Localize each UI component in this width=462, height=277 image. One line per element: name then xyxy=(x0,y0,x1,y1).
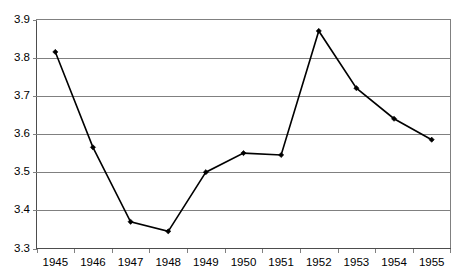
y-axis-tick-label: 3.7 xyxy=(2,90,30,102)
x-axis-tick-label: 1946 xyxy=(73,257,113,269)
x-axis-tick-label: 1955 xyxy=(412,257,452,269)
series-line xyxy=(55,31,431,231)
y-axis-tick-label: 3.6 xyxy=(2,128,30,140)
y-axis-tick-label: 3.4 xyxy=(2,204,30,216)
gridlines xyxy=(37,59,451,211)
line-chart: 3.93.83.73.63.53.43.3 194519461947194819… xyxy=(0,0,462,277)
y-axis-tick-label: 3.8 xyxy=(2,52,30,64)
chart-canvas xyxy=(0,0,462,277)
y-axis-tick-label: 3.3 xyxy=(2,243,30,255)
x-axis-tick-label: 1945 xyxy=(35,257,75,269)
x-axis-tick-label: 1948 xyxy=(148,257,188,269)
data-point-marker xyxy=(128,219,133,224)
data-series xyxy=(55,31,431,231)
data-point-markers xyxy=(53,28,435,234)
x-axis-tick-label: 1947 xyxy=(111,257,151,269)
data-point-marker xyxy=(90,145,95,150)
data-point-marker xyxy=(279,152,284,157)
x-axis-tick-label: 1953 xyxy=(336,257,376,269)
y-axis-tick-label: 3.5 xyxy=(2,166,30,178)
x-axis-tick-label: 1949 xyxy=(186,257,226,269)
x-axis-tick-label: 1951 xyxy=(261,257,301,269)
x-axis-tick-label: 1952 xyxy=(299,257,339,269)
y-axis-tick-label: 3.9 xyxy=(2,14,30,26)
data-point-marker xyxy=(53,49,58,54)
x-axis-tick-label: 1954 xyxy=(374,257,414,269)
x-axis-tick-label: 1950 xyxy=(224,257,264,269)
